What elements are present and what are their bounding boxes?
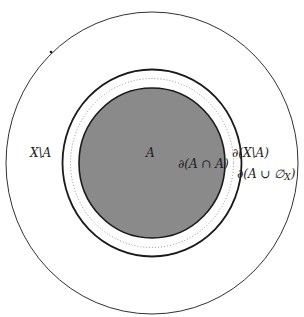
topology-diagram: X\A A ∂(A ∩ A) ∂(X\A) ∂(A ∪ ∅X) [0, 0, 304, 317]
label-boundary-a-cup-empty: ∂(A ∪ ∅X) [237, 167, 296, 182]
label-complement: X\A [29, 146, 52, 160]
label-boundary-a-cap-a: ∂(A ∩ A) [178, 157, 229, 171]
label-boundary-a-cup-empty-main: ∂(A ∪ ∅ [237, 167, 285, 181]
point-marker [50, 51, 53, 54]
label-set-a: A [145, 146, 155, 160]
label-boundary-close: ) [290, 167, 296, 181]
label-boundary-complement: ∂(X\A) [232, 146, 269, 160]
